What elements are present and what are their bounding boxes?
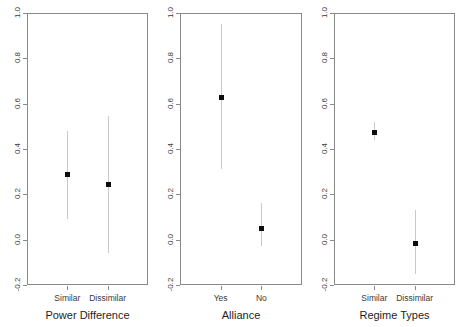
figure-coefficient-plot: -0.20.00.20.40.60.81.0SimilarDissimilarP… bbox=[0, 0, 462, 327]
y-axis-tick-label: 1.0 bbox=[320, 0, 329, 26]
x-axis-tick-mark bbox=[374, 286, 375, 290]
plot-area bbox=[334, 13, 455, 285]
y-axis-tick-label: 0.0 bbox=[320, 226, 329, 252]
y-axis-tick-label: 0.6 bbox=[320, 90, 329, 116]
y-axis-tick-label: 0.8 bbox=[320, 45, 329, 71]
data-point-marker bbox=[413, 241, 418, 246]
y-axis-tick-mark bbox=[330, 58, 334, 59]
y-axis-tick-label: -0.2 bbox=[320, 272, 329, 298]
y-axis-tick-mark bbox=[330, 285, 334, 286]
y-axis-tick-mark bbox=[330, 240, 334, 241]
y-axis-tick-label: 0.2 bbox=[320, 181, 329, 207]
y-axis-tick-label: 0.4 bbox=[320, 136, 329, 162]
y-axis-tick-mark bbox=[330, 149, 334, 150]
data-point-marker bbox=[372, 130, 377, 135]
plot-panel: -0.20.00.20.40.60.81.0SimilarDissimilarR… bbox=[0, 0, 462, 327]
x-axis-tick-mark bbox=[415, 286, 416, 290]
y-axis-tick-mark bbox=[330, 194, 334, 195]
y-axis-tick-mark bbox=[330, 104, 334, 105]
x-axis-title: Regime Types bbox=[324, 309, 462, 321]
y-axis-tick-mark bbox=[330, 13, 334, 14]
x-axis-tick-label: Dissimilar bbox=[380, 293, 450, 303]
